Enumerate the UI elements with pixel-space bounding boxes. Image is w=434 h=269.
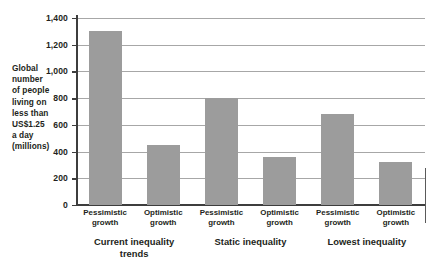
bar [263, 157, 296, 205]
category-label-line: growth [134, 218, 192, 228]
bar [89, 31, 122, 205]
bar [205, 98, 238, 205]
category-label: Pessimisticgrowth [192, 208, 250, 229]
y-axis-tick-label: 600 [53, 120, 68, 130]
y-axis-label: Globalnumberof peopleliving onless thanU… [12, 63, 70, 153]
category-label-line: growth [192, 218, 250, 228]
category-label: Pessimisticgrowth [76, 208, 134, 229]
category-label-line: growth [309, 218, 367, 228]
group-label: Static inequality [192, 236, 308, 248]
y-axis-label-line: a day [12, 130, 70, 141]
category-label-line: growth [251, 218, 309, 228]
category-label-line: Optimistic [367, 208, 425, 218]
category-axis-labels: PessimisticgrowthOptimisticgrowthPessimi… [76, 208, 425, 232]
group-label-line: Current inequality [76, 236, 192, 248]
y-axis-tick-label: 200 [53, 173, 68, 183]
category-label: Optimisticgrowth [251, 208, 309, 229]
y-axis-tick-label: 0 [63, 200, 68, 210]
bars-layer [76, 18, 425, 205]
group-label-line: Static inequality [192, 236, 308, 248]
category-label: Optimisticgrowth [367, 208, 425, 229]
group-label-line: Lowest inequality [309, 236, 425, 248]
y-axis-tick-label: 800 [53, 93, 68, 103]
y-axis-tick-label: 1,200 [46, 40, 68, 50]
group-label: Lowest inequality [309, 236, 425, 248]
category-label-line: growth [367, 218, 425, 228]
group-axis-labels: Current inequalitytrendsStatic inequalit… [76, 236, 425, 266]
bar-chart-figure: Globalnumberof peopleliving onless thanU… [0, 0, 434, 269]
group-label: Current inequalitytrends [76, 236, 192, 260]
bar [379, 162, 412, 205]
y-axis-tick-label: 400 [53, 147, 68, 157]
category-label-line: Optimistic [251, 208, 309, 218]
category-label-line: Optimistic [134, 208, 192, 218]
category-label-line: Pessimistic [309, 208, 367, 218]
y-axis-tick-mark [72, 205, 77, 206]
category-label-line: growth [76, 218, 134, 228]
category-label: Optimisticgrowth [134, 208, 192, 229]
plot-area: 02004006008001,0001,2001,400 [76, 18, 425, 205]
group-label-line: trends [76, 248, 192, 260]
y-axis-tick-label: 1,000 [46, 66, 68, 76]
bar [147, 145, 180, 205]
plot-right-edge [425, 168, 426, 223]
category-label: Pessimisticgrowth [309, 208, 367, 229]
bar [321, 114, 354, 205]
y-axis-tick-label: 1,400 [46, 13, 68, 23]
category-label-line: Pessimistic [76, 208, 134, 218]
category-label-line: Pessimistic [192, 208, 250, 218]
y-axis-label-line: less than [12, 108, 70, 119]
